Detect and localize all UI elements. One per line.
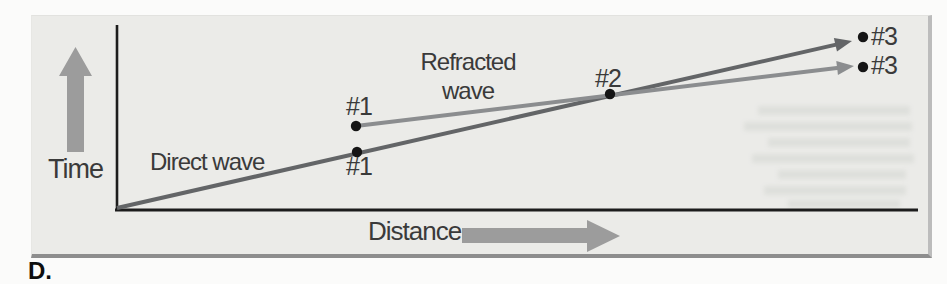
point-label-1-refracted: #1 [346, 93, 372, 120]
y-axis-label: Time [48, 155, 103, 184]
refracted-wave-label: Refracted wave [407, 47, 529, 105]
point-label-3-refracted: #3 [871, 52, 897, 79]
figure-letter: D. [28, 258, 52, 284]
point-label-3-direct: #3 [871, 23, 897, 50]
direct-wave-label: Direct wave [150, 149, 264, 175]
point-label-2: #2 [595, 65, 621, 92]
point-label-1-direct: #1 [346, 153, 372, 180]
x-axis-label: Distance [368, 217, 461, 245]
